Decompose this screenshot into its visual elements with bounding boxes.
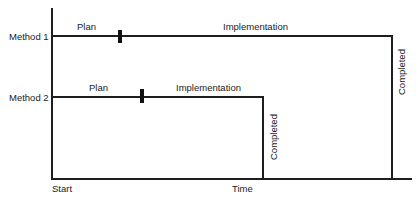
method-2-completion-line: [262, 96, 264, 179]
method-2-completed-label: Completed: [268, 114, 279, 160]
method-2-phase-marker: [140, 89, 144, 103]
method-2-label: Method 2: [9, 92, 49, 103]
method-1-label: Method 1: [9, 31, 49, 42]
method-1-implementation-label: Implementation: [223, 21, 288, 32]
y-axis: [51, 8, 53, 179]
method-2-timeline: [51, 96, 264, 98]
method-1-timeline: [51, 35, 393, 37]
method-1-completion-line: [391, 35, 393, 179]
x-axis: [51, 178, 412, 180]
x-axis-time-label: Time: [232, 183, 253, 194]
method-1-phase-marker: [118, 30, 122, 43]
method-1-completed-label: Completed: [396, 49, 407, 95]
x-axis-start-label: Start: [52, 183, 72, 194]
method-1-plan-label: Plan: [77, 21, 96, 32]
method-2-implementation-label: Implementation: [176, 82, 241, 93]
method-2-plan-label: Plan: [89, 82, 108, 93]
